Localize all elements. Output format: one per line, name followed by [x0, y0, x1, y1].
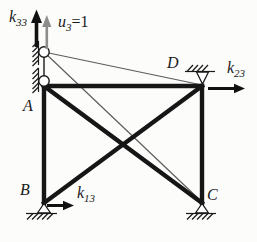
pin-triangle-c: [196, 204, 209, 214]
label-k33: k33: [9, 9, 27, 28]
label-node-a: A: [23, 98, 33, 114]
label-k13-sub: 13: [84, 192, 95, 204]
wall-support-lower: [33, 68, 39, 93]
structural-diagram: k33 u3=1 A B C D k13 k23: [0, 0, 257, 242]
u3-arrow-head: [42, 15, 51, 27]
k23-arrow-head: [234, 84, 245, 94]
node-c-text: C: [207, 186, 218, 203]
roller-support-d: [185, 65, 215, 72]
displaced-line-to-c: [44, 52, 202, 202]
k33-arrow-head: [31, 10, 42, 24]
roller-triangle-d: [197, 72, 209, 84]
roller-circle-node-a: [39, 76, 49, 86]
pin-hatching-b: [26, 214, 57, 220]
label-u3-base: u: [58, 13, 66, 30]
label-u3: u3=1: [58, 14, 89, 33]
pin-hatching-c: [186, 214, 216, 220]
pin-support-c: [186, 204, 216, 220]
node-b-text: B: [20, 181, 30, 198]
label-u3-suffix: =1: [72, 13, 89, 30]
k23-force-arrow: [208, 84, 245, 94]
label-k23: k23: [227, 60, 245, 79]
label-k23-sub: 23: [234, 67, 245, 79]
label-node-b: B: [20, 182, 30, 198]
node-d-text: D: [167, 54, 179, 71]
k13-force-arrow: [47, 201, 74, 211]
label-k13: k13: [77, 185, 95, 204]
displaced-shape-lines: [44, 52, 202, 202]
node-a-text: A: [23, 97, 33, 114]
u3-displacement-arrow: [42, 15, 51, 49]
label-node-c: C: [207, 187, 218, 203]
label-k33-sub: 33: [16, 16, 27, 28]
k13-arrow-head: [63, 201, 74, 211]
k33-force-arrow: [31, 10, 42, 48]
label-node-d: D: [167, 55, 179, 71]
frame-drawing: [0, 0, 257, 242]
frame-members: [44, 86, 202, 203]
